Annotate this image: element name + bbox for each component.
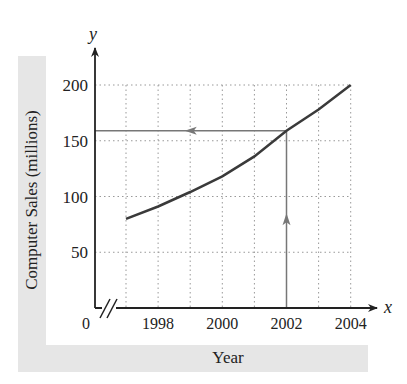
y-tick-label: 50 — [71, 243, 88, 262]
y-tick-label: 100 — [63, 188, 89, 207]
x-tick-label: 2004 — [335, 315, 367, 332]
x-tick-label: 2000 — [206, 315, 238, 332]
line-chart: 5010015020019982000200220040yx — [0, 0, 407, 384]
x-tick-label: 1998 — [142, 315, 174, 332]
grid-lines — [95, 85, 351, 308]
tick-labels: 5010015020019982000200220040yx — [63, 24, 393, 332]
x-tick-label: 2002 — [271, 315, 303, 332]
sales-curve — [126, 85, 351, 219]
x-axis-symbol: x — [383, 297, 392, 317]
y-tick-label: 150 — [63, 132, 89, 151]
axes — [95, 48, 377, 318]
y-axis-symbol: y — [87, 24, 97, 44]
annotation-arrows — [95, 127, 291, 308]
origin-label: 0 — [82, 315, 90, 332]
y-tick-label: 200 — [63, 76, 89, 95]
